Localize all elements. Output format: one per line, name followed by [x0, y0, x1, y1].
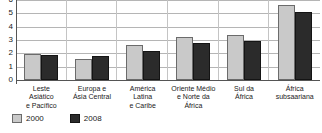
- bar-2000-2: [126, 45, 143, 80]
- category-label-line: Oriente Médio: [169, 85, 218, 93]
- chart-legend: 20002008: [12, 114, 102, 123]
- category-label-3: Oriente Médioe Norte daÁfrica: [168, 85, 219, 113]
- y-tick-label: 1: [9, 63, 13, 71]
- legend-swatch-icon: [70, 114, 80, 123]
- plot-area: 0123456: [0, 0, 322, 84]
- y-tick-label: 6: [9, 0, 13, 4]
- bar-group: [117, 0, 168, 80]
- bar-2008-5: [295, 12, 312, 80]
- legend-item-2000[interactable]: 2000: [12, 114, 44, 123]
- category-label-2: AméricaLatinae Caribe: [117, 85, 168, 113]
- bars-layer: [16, 0, 320, 80]
- y-tick-label: 4: [9, 23, 13, 31]
- category-label-1: Europa eÁsia Central: [67, 85, 118, 113]
- bar-2008-4: [244, 41, 261, 80]
- category-label-line: subsaariana: [270, 93, 319, 101]
- bar-2008-2: [143, 51, 160, 80]
- y-axis: 0123456: [0, 0, 16, 84]
- category-label-line: África: [270, 85, 319, 93]
- category-label-line: Latina: [118, 93, 167, 101]
- category-label-4: Sul daÁfrica: [219, 85, 270, 113]
- bar-group: [269, 0, 320, 80]
- category-label-line: Leste: [17, 85, 66, 93]
- bar-group: [168, 0, 219, 80]
- x-axis-line: [16, 80, 320, 81]
- legend-label: 2000: [26, 115, 44, 123]
- category-label-line: Ásia Central: [68, 93, 117, 101]
- category-labels: LesteAsiáticoe PacíficoEuropa eÁsia Cent…: [16, 85, 320, 113]
- category-label-line: e Caribe: [118, 102, 167, 110]
- bar-2008-0: [41, 55, 58, 80]
- bar-2000-3: [176, 37, 193, 80]
- y-tick-label: 0: [9, 76, 13, 84]
- category-label-line: Asiático: [17, 93, 66, 101]
- bar-2008-1: [92, 56, 109, 80]
- bar-group: [16, 0, 67, 80]
- bar-2000-4: [227, 35, 244, 80]
- category-label-line: e Pacífico: [17, 102, 66, 110]
- bar-chart: 0123456 LesteAsiáticoe PacíficoEuropa eÁ…: [0, 0, 322, 133]
- category-label-line: e Norte da: [169, 93, 218, 101]
- y-tick-label: 2: [9, 49, 13, 57]
- legend-label: 2008: [84, 115, 102, 123]
- legend-swatch-icon: [12, 114, 22, 123]
- category-label-line: África: [220, 93, 269, 101]
- bar-group: [219, 0, 270, 80]
- category-label-0: LesteAsiáticoe Pacífico: [16, 85, 67, 113]
- bar-2000-0: [24, 54, 41, 80]
- category-label-5: Áfricasubsaariana: [269, 85, 320, 113]
- bar-2008-3: [193, 43, 210, 80]
- y-tick-label: 5: [9, 9, 13, 17]
- bar-group: [67, 0, 118, 80]
- bar-2000-5: [278, 5, 295, 80]
- y-tick-label: 3: [9, 36, 13, 44]
- category-label-line: África: [169, 102, 218, 110]
- legend-item-2008[interactable]: 2008: [70, 114, 102, 123]
- bar-2000-1: [75, 59, 92, 80]
- category-label-line: América: [118, 85, 167, 93]
